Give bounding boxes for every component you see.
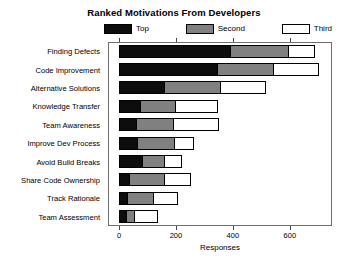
y-axis-label: Improve Dev Process [0,139,100,148]
y-axis-label: Share Code Ownership [0,176,100,185]
bar-stack [119,100,218,113]
bar-stack [119,155,182,168]
bar-segment-second [137,138,174,149]
bar-row [108,208,332,226]
bar-row [108,79,332,97]
bar-row [108,116,332,134]
legend-swatch-second [186,24,214,34]
bars-layer [108,42,332,226]
bar-segment-third [273,64,318,75]
bar-segment-third [134,211,157,222]
bar-row [108,97,332,115]
y-axis-label: Avoid Build Breaks [0,157,100,166]
legend-swatch-third [282,24,310,34]
bar-segment-top [120,119,136,130]
bar-row [108,134,332,152]
legend-swatch-top [104,24,132,34]
x-axis-tick-label: 400 [227,231,240,240]
bar-segment-top [120,174,129,185]
y-axis-label: Team Awareness [0,120,100,129]
bar-stack [119,118,219,131]
bar-segment-third [173,119,219,130]
bar-segment-second [126,211,134,222]
bar-segment-second [230,46,288,57]
bar-segment-second [136,119,173,130]
bar-segment-top [120,82,164,93]
bar-segment-second [127,193,153,204]
legend-entry-top: Top [104,24,149,34]
x-axis-top-tick [290,38,291,42]
bar-segment-second [217,64,273,75]
y-axis-category-labels: Finding DefectsCode ImprovementAlternati… [0,42,105,226]
x-axis-tick-label: 200 [170,231,183,240]
bar-row [108,171,332,189]
x-axis-top-tick [233,38,234,42]
bar-stack [119,192,178,205]
bar-segment-third [175,101,217,112]
bar-row [108,42,332,60]
legend-label-top: Top [136,24,149,33]
bar-segment-second [142,156,164,167]
y-axis-label: Finding Defects [0,47,100,56]
legend-label-second: Second [218,24,245,33]
bar-row [108,60,332,78]
bar-segment-top [120,64,217,75]
bar-stack [119,81,266,94]
bar-segment-third [174,138,194,149]
bar-segment-top [120,138,137,149]
bar-segment-second [140,101,175,112]
x-axis-tick [119,226,120,230]
bar-segment-top [120,101,140,112]
bar-segment-third [164,156,181,167]
x-axis-title: Responses [108,243,332,252]
y-axis-label: Alternative Solutions [0,84,100,93]
bar-stack [119,45,315,58]
x-axis-tick [290,226,291,230]
bar-stack [119,137,194,150]
x-axis-top-tick [119,38,120,42]
x-axis-tick-label: 600 [284,231,297,240]
bar-segment-second [129,174,164,185]
bar-segment-top [120,193,127,204]
bar-stack [119,173,191,186]
x-axis-tick [233,226,234,230]
y-axis-label: Team Assessment [0,212,100,221]
bar-segment-third [153,193,177,204]
legend-entry-third: Third [282,24,332,34]
x-axis-tick [176,226,177,230]
legend-entry-second: Second [186,24,245,34]
ranked-motivations-chart: Ranked Motivations From Developers Top S… [0,0,348,265]
y-axis-label: Code Improvement [0,65,100,74]
bar-row [108,152,332,170]
bar-segment-second [164,82,221,93]
chart-title: Ranked Motivations From Developers [0,7,348,18]
bar-stack [119,210,158,223]
y-axis-label: Knowledge Transfer [0,102,100,111]
bar-segment-third [164,174,191,185]
bar-segment-third [288,46,314,57]
bar-segment-top [120,46,230,57]
legend-label-third: Third [314,24,332,33]
chart-legend: Top Second Third [104,22,332,35]
x-axis-tick-label: 0 [117,231,121,240]
bar-stack [119,63,319,76]
x-axis-top-tick [176,38,177,42]
y-axis-label: Track Rationale [0,194,100,203]
bar-segment-top [120,156,142,167]
bar-row [108,189,332,207]
bar-segment-third [220,82,265,93]
